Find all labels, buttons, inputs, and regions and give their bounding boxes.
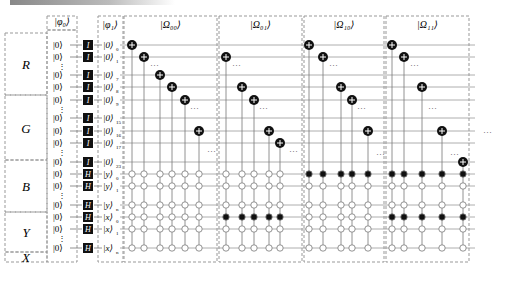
control-open: [141, 214, 147, 220]
output-ket-subscript: 23: [116, 164, 122, 169]
input-ket: |0⟩: [53, 95, 63, 105]
output-ket-subscript: 15: [116, 120, 122, 125]
control-open: [223, 245, 229, 251]
input-ket: |0⟩: [53, 40, 63, 50]
control-open: [239, 245, 245, 251]
control-open: [141, 226, 147, 232]
control-open: [251, 245, 257, 251]
control-open: [239, 202, 245, 208]
control-open: [349, 214, 355, 220]
control-open: [365, 226, 371, 232]
gate-label: I: [86, 71, 90, 80]
control-open: [389, 245, 395, 251]
control-open: [365, 202, 371, 208]
gate-label: I: [86, 127, 90, 136]
control-open: [223, 226, 229, 232]
control-open: [266, 171, 272, 177]
control-open: [157, 202, 163, 208]
input-ket: |0⟩: [53, 212, 63, 222]
input-ket: |0⟩: [53, 169, 63, 179]
input-ket: |0⟩: [53, 138, 63, 148]
output-ket: |0⟩: [103, 126, 114, 136]
input-ket: |0⟩: [53, 70, 63, 80]
control-filled: [389, 214, 395, 220]
control-open: [182, 202, 188, 208]
output-ket-subscript: n: [116, 250, 119, 255]
control-open: [157, 245, 163, 251]
control-open: [439, 202, 445, 208]
control-open: [129, 183, 135, 189]
block-box: [386, 16, 469, 262]
control-open: [349, 202, 355, 208]
control-open: [460, 183, 466, 189]
output-ket-subscript: 9: [116, 102, 119, 107]
block-label: |Ω₀₀⟩: [160, 19, 181, 30]
output-ket-subscript: 0: [116, 176, 119, 181]
control-open: [182, 226, 188, 232]
ellipsis: …: [450, 147, 459, 157]
control-filled: [389, 171, 395, 177]
control-filled: [460, 171, 466, 177]
control-filled: [349, 171, 355, 177]
ellipsis: …: [483, 125, 492, 135]
control-open: [306, 202, 312, 208]
control-open: [251, 202, 257, 208]
control-open: [182, 245, 188, 251]
control-open: [306, 226, 312, 232]
control-open: [129, 214, 135, 220]
control-open: [306, 214, 312, 220]
block-box: [304, 16, 384, 262]
control-open: [277, 226, 283, 232]
block-box: [124, 16, 217, 262]
control-open: [306, 245, 312, 251]
control-open: [157, 171, 163, 177]
control-open: [389, 183, 395, 189]
control-open: [277, 202, 283, 208]
control-filled: [419, 171, 425, 177]
control-open: [401, 202, 407, 208]
control-open: [419, 245, 425, 251]
control-open: [349, 226, 355, 232]
gate-label: I: [86, 53, 90, 62]
ellipsis: …: [150, 58, 159, 68]
output-ket: |y⟩: [103, 169, 113, 179]
control-open: [401, 245, 407, 251]
control-open: [320, 202, 326, 208]
ellipsis: …: [289, 144, 298, 154]
input-state-label: |φ₀⟩: [54, 16, 70, 27]
control-open: [266, 245, 272, 251]
control-open: [266, 226, 272, 232]
control-filled: [401, 214, 407, 220]
output-ket: |x⟩: [103, 224, 113, 234]
control-filled: [223, 214, 229, 220]
input-ket: |0⟩: [53, 224, 63, 234]
gate-label: I: [86, 41, 90, 50]
control-open: [251, 183, 257, 189]
ellipsis: …: [190, 101, 199, 111]
output-ket: |y⟩: [103, 181, 113, 191]
control-open: [169, 245, 175, 251]
gate-label: I: [86, 83, 90, 92]
control-filled: [239, 214, 245, 220]
register-label-x: X: [21, 250, 31, 265]
control-open: [439, 226, 445, 232]
control-open: [419, 202, 425, 208]
output-ket-subscript: 0: [116, 47, 119, 52]
register-label-g: G: [21, 121, 31, 136]
ellipsis: …: [376, 147, 385, 157]
output-ket: |0⟩: [103, 113, 114, 123]
output-ket: |x⟩: [103, 212, 113, 222]
vertical-ellipsis: ⋮: [58, 191, 66, 200]
control-filled: [460, 214, 466, 220]
control-open: [129, 226, 135, 232]
input-ket: |0⟩: [53, 113, 63, 123]
control-open: [239, 226, 245, 232]
control-open: [129, 202, 135, 208]
control-filled: [251, 214, 257, 220]
output-ket: |x⟩: [103, 243, 113, 253]
control-filled: [266, 214, 272, 220]
output-ket: |0⟩: [103, 70, 114, 80]
block-label: |Ω₁₁⟩: [417, 19, 438, 30]
control-open: [223, 202, 229, 208]
control-open: [338, 226, 344, 232]
